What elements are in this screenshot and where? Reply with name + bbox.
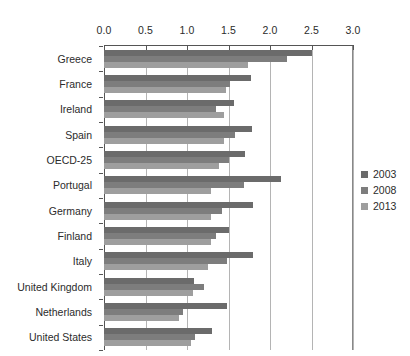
y-axis-category-label: Greece (58, 53, 92, 65)
x-axis-tick-mark (353, 46, 354, 50)
y-axis-tick-mark (99, 223, 103, 224)
x-axis-tick-mark (229, 46, 230, 50)
y-axis-category-label: Spain (65, 129, 92, 141)
x-axis-tick-label: 0.5 (138, 24, 153, 36)
bar (104, 214, 211, 220)
x-axis-tick-label: 2.5 (304, 24, 319, 36)
legend-label: 2008 (373, 185, 396, 196)
y-axis-tick-mark (99, 71, 103, 72)
y-axis-tick-mark (99, 274, 103, 275)
y-axis-category-label: United Kingdom (17, 281, 92, 293)
bar-group (104, 176, 353, 194)
bar-group (104, 252, 353, 270)
legend-swatch-icon (361, 171, 368, 178)
bar (104, 264, 208, 270)
y-axis-category-label: Netherlands (35, 306, 92, 318)
bar-group (104, 328, 353, 346)
bar-group (104, 151, 353, 169)
legend-item[interactable]: 2013 (361, 198, 407, 214)
y-axis-tick-mark (99, 198, 103, 199)
x-axis-tick-mark (312, 46, 313, 50)
bar (104, 290, 193, 296)
x-axis-tick-label: 1.5 (221, 24, 236, 36)
y-axis-tick-mark (99, 325, 103, 326)
legend-label: 2013 (373, 201, 396, 212)
bar-group (104, 50, 353, 68)
bar-group (104, 202, 353, 220)
x-axis-tick-mark (104, 46, 105, 50)
bar (104, 315, 179, 321)
y-axis-category-label: Italy (73, 255, 92, 267)
bar (104, 112, 224, 118)
y-axis-category-labels: GreeceFranceIrelandSpainOECD-25PortugalG… (0, 46, 100, 350)
x-axis-tick-mark (187, 46, 188, 50)
x-axis-tick-label: 2.0 (262, 24, 277, 36)
bar (104, 239, 211, 245)
legend-item[interactable]: 2008 (361, 182, 407, 198)
x-axis-tick-label: 0.0 (96, 24, 111, 36)
plot-area (104, 46, 353, 350)
bar (104, 62, 248, 68)
y-axis-category-label: France (59, 78, 92, 90)
bar-group (104, 303, 353, 321)
y-axis-category-label: Finland (58, 230, 92, 242)
y-axis-category-label: United States (29, 331, 92, 343)
bar-group (104, 278, 353, 296)
legend-item[interactable]: 2003 (361, 166, 407, 182)
bar (104, 340, 191, 346)
bar-group (104, 126, 353, 144)
x-axis-tick-labels: 0.00.51.01.52.02.53.0 (0, 24, 410, 46)
legend-swatch-icon (361, 203, 368, 210)
bar-group (104, 227, 353, 245)
gridline (353, 46, 354, 350)
y-axis-tick-mark (99, 147, 103, 148)
bar-chart: 0.00.51.01.52.02.53.0 GreeceFranceIrelan… (0, 0, 410, 356)
legend-swatch-icon (361, 187, 368, 194)
bar (104, 188, 211, 194)
bar-group (104, 75, 353, 93)
legend-label: 2003 (373, 169, 396, 180)
bar (104, 87, 226, 93)
y-axis-tick-mark (99, 122, 103, 123)
y-axis-tick-mark (99, 299, 103, 300)
x-axis-tick-label: 1.0 (179, 24, 194, 36)
y-axis-tick-mark (99, 46, 103, 47)
y-axis-tick-mark (99, 350, 103, 351)
x-axis-tick-mark (270, 46, 271, 50)
legend: 200320082013 (361, 166, 407, 214)
x-axis-tick-label: 3.0 (345, 24, 360, 36)
bar (104, 163, 219, 169)
y-axis-category-label: Ireland (60, 103, 92, 115)
y-axis-tick-mark (99, 249, 103, 250)
y-axis-tick-mark (99, 97, 103, 98)
bar-group (104, 100, 353, 118)
y-axis-category-label: Portugal (53, 179, 92, 191)
y-axis-category-label: Germany (49, 205, 92, 217)
y-axis-tick-mark (99, 173, 103, 174)
y-axis-category-label: OECD-25 (46, 154, 92, 166)
x-axis-tick-mark (146, 46, 147, 50)
bar (104, 138, 224, 144)
